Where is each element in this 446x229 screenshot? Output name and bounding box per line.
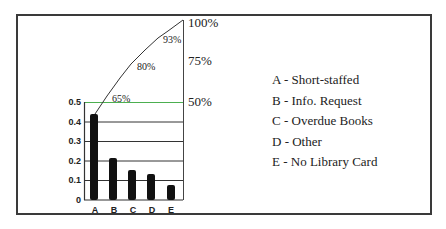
bar-e [167, 185, 175, 200]
svg-text:D: D [149, 205, 156, 215]
bar-a [90, 114, 98, 200]
svg-text:50%: 50% [188, 94, 212, 109]
legend-item-e: E - No Library Card [272, 152, 377, 173]
y-tick-labels: 0.5 0.4 0.3 0.2 0.1 0 [68, 97, 81, 205]
svg-text:100%: 100% [188, 15, 219, 30]
bar-d [147, 174, 155, 200]
svg-text:0.3: 0.3 [68, 136, 81, 146]
svg-text:75%: 75% [188, 53, 212, 68]
x-tick-labels: A B C D E [92, 205, 174, 215]
legend-item-d: D - Other [272, 132, 377, 153]
bar-c [128, 170, 136, 200]
bar-b [109, 158, 117, 200]
svg-text:A: A [92, 205, 99, 215]
svg-text:0.5: 0.5 [68, 97, 81, 107]
legend-item-a: A - Short-staffed [272, 70, 377, 91]
svg-text:93%: 93% [163, 34, 181, 45]
svg-text:B: B [111, 205, 118, 215]
legend: A - Short-staffed B - Info. Request C - … [272, 70, 377, 173]
svg-text:C: C [130, 205, 137, 215]
svg-text:0.2: 0.2 [68, 156, 81, 166]
legend-item-b: B - Info. Request [272, 91, 377, 112]
svg-text:80%: 80% [137, 61, 155, 72]
svg-text:0.4: 0.4 [68, 117, 81, 127]
svg-text:0: 0 [76, 195, 81, 205]
cumulative-labels: 65% 80% 93% [112, 34, 181, 104]
bars [90, 114, 175, 200]
pareto-chart: 0.5 0.4 0.3 0.2 0.1 0 A B C D E 65% 80% … [0, 0, 446, 229]
legend-item-c: C - Overdue Books [272, 111, 377, 132]
svg-text:0.1: 0.1 [68, 175, 81, 185]
secondary-axis-labels: 50% 75% 100% [188, 15, 219, 109]
svg-text:65%: 65% [112, 93, 130, 104]
svg-text:E: E [168, 205, 174, 215]
